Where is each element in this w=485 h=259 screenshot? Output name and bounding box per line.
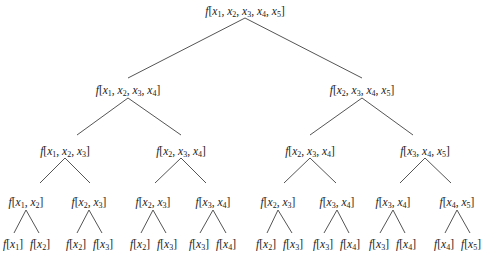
tree-node: f[x3, x4, x5]: [400, 146, 450, 159]
tree-edge: [77, 98, 128, 135]
leaf-node: f[x4]: [340, 239, 360, 252]
tree-edge: [213, 210, 226, 233]
tree-edge: [425, 158, 451, 183]
tree-node: f[x2, x3]: [72, 197, 107, 210]
divided-difference-tree: f[x1, x2, x3, x4, x5]f[x1, x2, x3, x4]f[…: [0, 0, 485, 259]
tree-node: f[x1, x2, x3, x4, x5]: [205, 6, 284, 19]
tree-edge: [284, 158, 310, 183]
tree-edge: [445, 210, 457, 233]
tree-node: f[x2, x3]: [261, 197, 296, 210]
tree-node: f[x2, x3, x4]: [156, 146, 206, 159]
leaf-node: f[x3]: [283, 239, 303, 252]
tree-node: f[x1, x2]: [9, 197, 44, 210]
leaf-node: f[x2]: [30, 239, 50, 252]
tree-node: f[x4, x5]: [440, 197, 475, 210]
tree-edge: [77, 210, 89, 233]
tree-edge: [278, 210, 292, 233]
tree-edges: [0, 0, 485, 259]
leaf-node: f[x3]: [93, 239, 113, 252]
tree-edge: [400, 158, 425, 183]
tree-node: f[x2, x3]: [136, 197, 171, 210]
tree-edge: [200, 210, 213, 233]
tree-edge: [89, 210, 102, 233]
tree-edge: [245, 18, 362, 78]
leaf-node: f[x2]: [256, 239, 276, 252]
tree-edge: [65, 158, 90, 183]
leaf-node: f[x4]: [216, 239, 236, 252]
tree-node: f[x2, x3, x4, x5]: [330, 85, 395, 98]
leaf-node: f[x4]: [434, 239, 454, 252]
tree-edge: [40, 158, 65, 183]
leaf-node: f[x3]: [369, 239, 389, 252]
tree-edge: [153, 210, 166, 233]
tree-edge: [457, 210, 470, 233]
tree-edge: [310, 158, 336, 183]
tree-edge: [128, 98, 181, 135]
leaf-node: f[x3]: [157, 239, 177, 252]
tree-node: f[x2, x3, x4]: [285, 146, 335, 159]
tree-node: f[x1, x2, x3, x4]: [96, 85, 161, 98]
leaf-node: f[x5]: [461, 239, 481, 252]
tree-edge: [128, 18, 245, 78]
leaf-node: f[x2]: [66, 239, 86, 252]
tree-edge: [393, 210, 405, 233]
tree-edge: [362, 98, 413, 135]
leaf-node: f[x3]: [189, 239, 209, 252]
tree-edge: [267, 210, 278, 233]
leaf-node: f[x1]: [3, 239, 23, 252]
leaf-node: f[x3]: [313, 239, 333, 252]
tree-edge: [155, 158, 181, 183]
tree-edge: [380, 210, 393, 233]
tree-edge: [181, 158, 206, 183]
tree-node: f[x3, x4]: [376, 197, 411, 210]
tree-edge: [310, 98, 362, 135]
tree-edge: [324, 210, 337, 233]
tree-node: f[x3, x4]: [196, 197, 231, 210]
tree-node: f[x3, x4]: [320, 197, 355, 210]
tree-edge: [141, 210, 153, 233]
leaf-node: f[x2]: [130, 239, 150, 252]
leaf-node: f[x4]: [396, 239, 416, 252]
tree-edge: [26, 210, 39, 233]
tree-edge: [14, 210, 26, 233]
tree-edge: [337, 210, 349, 233]
tree-node: f[x1, x2, x3]: [40, 146, 90, 159]
